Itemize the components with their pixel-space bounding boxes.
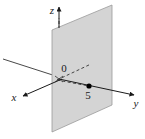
figure-container: z x y 0 5 [0,0,145,139]
z-axis-label: z [49,4,55,16]
point-y-5-marker [86,83,91,88]
x-axis-label: x [11,91,17,103]
point-value-label: 5 [85,89,91,101]
origin-label: 0 [61,62,67,74]
coordinate-plane-diagram: z x y 0 5 [0,0,145,139]
y-axis-label: y [133,97,139,109]
